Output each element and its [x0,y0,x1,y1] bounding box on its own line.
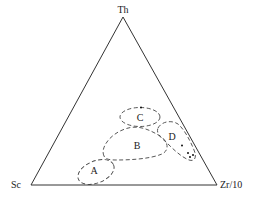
field-label-c: C [137,112,144,123]
vertex-label-zr10: Zr/10 [220,179,242,190]
field-d: D [157,122,195,161]
vertex-label-sc: Sc [11,179,22,190]
field-label-b: B [134,140,141,151]
ternary-diagram: Th Sc Zr/10 C B A D [0,0,258,199]
field-a: A [74,155,117,190]
field-label-d: D [168,131,175,142]
sample-point [192,154,194,156]
sample-point [181,145,183,147]
vertex-label-th: Th [117,4,128,15]
field-label-a: A [90,165,98,176]
field-c: C [120,108,160,127]
sample-point [189,156,191,158]
sample-point [140,107,142,109]
sample-points [140,107,194,159]
sample-point [187,152,189,154]
